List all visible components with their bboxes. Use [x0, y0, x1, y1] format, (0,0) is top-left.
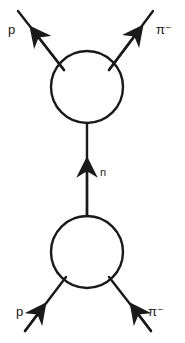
outgoing-proton-arrow-icon	[36, 34, 64, 70]
label-outgoing-pion: π⁻	[156, 22, 172, 37]
label-neutron: n	[100, 166, 106, 178]
diagram-canvas: p π⁻ n p π⁻	[0, 0, 185, 343]
outgoing-pion-arrow-icon	[109, 33, 137, 70]
incoming-proton-arrow-icon	[25, 311, 40, 331]
feynman-diagram: p π⁻ n p π⁻	[0, 0, 185, 343]
label-incoming-proton: p	[16, 304, 23, 319]
label-outgoing-proton: p	[8, 22, 15, 37]
top-vertex-blob	[51, 51, 123, 123]
label-incoming-pion: π⁻	[148, 304, 164, 319]
bottom-vertex-blob	[51, 216, 123, 288]
